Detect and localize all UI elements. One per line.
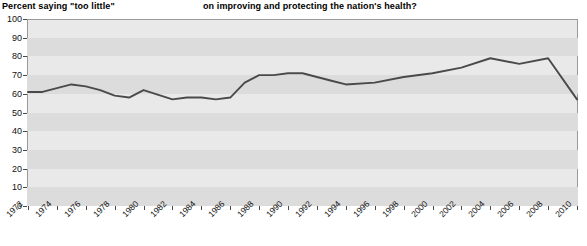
x-axis-tick [259,206,260,210]
x-axis-tick [201,206,202,210]
x-axis-tick [375,206,376,210]
x-axis-tick [519,206,520,210]
x-axis-tick [28,206,29,210]
y-axis-tick-label: 90 [0,33,22,43]
y-axis-tick-label: 30 [0,145,22,155]
plot-area [27,19,578,206]
x-axis-tick [346,206,347,210]
chart-root: Percent saying "too little" on improving… [0,0,587,246]
x-axis-tick [144,206,145,210]
chart-title: on improving and protecting the nation's… [203,1,417,11]
x-axis-tick [230,206,231,210]
x-axis-tick [461,206,462,210]
data-line [28,58,577,99]
y-axis-tick-label: 40 [0,126,22,136]
y-axis-tick-label: 70 [0,70,22,80]
x-axis-tick [86,206,87,210]
y-axis-tick-label: 60 [0,89,22,99]
x-axis-tick [490,206,491,210]
x-axis-tick [577,206,578,210]
x-axis-tick [288,206,289,210]
x-axis-tick [115,206,116,210]
x-axis-tick [57,206,58,210]
y-axis-tick-label: 100 [0,14,22,24]
x-axis-tick [317,206,318,210]
y-axis-tick-label: 50 [0,108,22,118]
x-axis-tick [548,206,549,210]
y-axis-tick-label: 80 [0,51,22,61]
data-line-svg [27,19,578,206]
x-axis-tick [404,206,405,210]
y-axis-title: Percent saying "too little" [2,1,115,11]
x-axis-tick [433,206,434,210]
y-axis-tick-label: 20 [0,164,22,174]
x-axis-tick [172,206,173,210]
y-axis-tick-label: 10 [0,182,22,192]
